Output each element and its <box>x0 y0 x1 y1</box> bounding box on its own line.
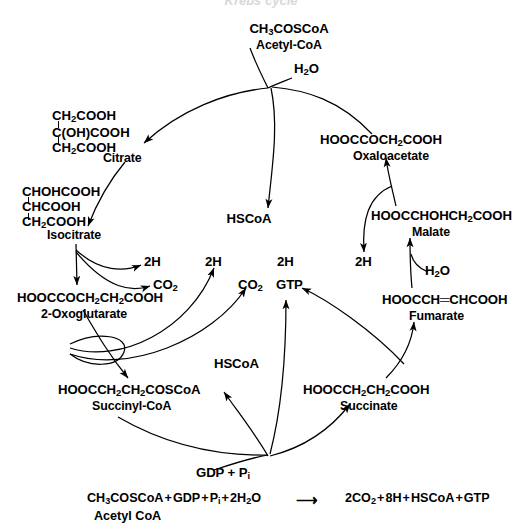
arrow-water-top-in <box>268 78 292 88</box>
hydrogen-oxoglutarate-label: 2H <box>205 255 222 270</box>
arrow-top-to-citrate <box>144 88 268 143</box>
gtp-label: GTP <box>276 278 303 293</box>
isocitrate-bond-2 <box>28 213 29 220</box>
oxoglutarate-formula: HOOCCOCH2CH2COOH <box>17 291 163 307</box>
oxaloacetate-formula: HOOCCOCH2COOH <box>320 133 442 149</box>
succinate-formula: HOOCCH2CH2COOH <box>303 383 429 399</box>
malate-label: Malate <box>412 226 450 240</box>
citrate-line-2: C(OH)COOH <box>52 125 130 140</box>
hydrogen-malate-label: 2H <box>355 255 372 270</box>
isocitrate-label: Isocitrate <box>47 229 101 243</box>
isocitrate-line-2: CHCOOH <box>22 199 100 214</box>
water-top-label: H2O <box>294 62 319 78</box>
citrate-structure: CH2COOH C(OH)COOH CH2COOH <box>52 108 130 157</box>
hydrogen-isocitrate-label: 2H <box>144 255 161 270</box>
citrate-label: Citrate <box>103 152 142 166</box>
arrow-acetylcoa-in <box>250 48 268 88</box>
oxaloacetate-label: Oxaloacetate <box>353 150 429 164</box>
summary-equation-arrow: ⟶ <box>296 491 318 509</box>
arrow-top-to-hscoa <box>268 88 275 208</box>
krebs-cycle-diagram: Krebs cycle <box>0 0 522 531</box>
summary-equation-right: 2CO2 + 8H + HSCoA + GTP <box>345 491 490 506</box>
acetyl-coa-label: Acetyl-CoA <box>256 39 322 53</box>
arrow-bottom-to-succinate <box>270 404 350 456</box>
arrow-isocitrate-to-co2 <box>76 252 150 289</box>
arrow-isocitrate-to-2h <box>76 250 141 269</box>
water-malate-label: H2O <box>425 264 450 280</box>
citrate-bond-1 <box>58 121 59 128</box>
succinate-label: Succinate <box>340 400 398 414</box>
citrate-bond-2 <box>58 137 59 144</box>
isocitrate-line-1: CHOHCOOH <box>22 184 100 199</box>
gdp-pi-label: GDP + Pi <box>196 466 250 482</box>
hscoa-citrate-label: HSCoA <box>227 212 272 227</box>
isocitrate-structure: CHOHCOOH CHCOOH CH2COOH <box>22 184 100 231</box>
oxoglutarate-label: 2-Oxoglutarate <box>41 308 127 322</box>
fumarate-label: Fumarate <box>409 310 464 324</box>
acetyl-coa-formula: CH3COSCoA <box>249 22 328 38</box>
isocitrate-bond-1 <box>28 197 29 204</box>
summary-equation-note: Acetyl CoA <box>94 509 161 523</box>
arrow-oxaloacetate-to-top <box>272 87 372 134</box>
arrow-bottom-to-gtp <box>270 300 286 454</box>
hydrogen-succinate-label: 2H <box>277 255 294 270</box>
co2-isocitrate-label: CO2 <box>153 278 178 294</box>
arrow-malate-to-oxaloacetate <box>386 158 396 206</box>
fumarate-formula: HOOCCH═CHCOOH <box>382 293 507 308</box>
arrow-fumarate-to-malate <box>410 238 412 288</box>
malate-formula: HOOCCHOHCH2COOH <box>371 209 512 225</box>
arrow-bottom-to-hscoa <box>224 392 268 456</box>
co2-oxoglutarate-label: CO2 <box>238 278 263 294</box>
citrate-line-1: CH2COOH <box>52 108 130 125</box>
hscoa-succinyl-label: HSCoA <box>214 357 259 372</box>
succinyl-coa-label: Succinyl-CoA <box>92 400 171 414</box>
succinyl-coa-formula: HOOCCH2CH2COSCoA <box>58 383 200 399</box>
summary-equation-left: CH3COSCoA + GDP + Pi + 2H2O <box>87 491 261 506</box>
